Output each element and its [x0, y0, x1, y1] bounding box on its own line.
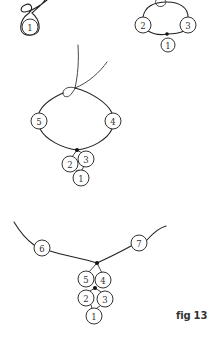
bead-2: 2: [78, 290, 94, 306]
svg-text:1: 1: [27, 23, 32, 33]
svg-text:1: 1: [91, 312, 96, 322]
bead-4: 4: [95, 272, 111, 288]
thread-loop-bottom-left: [40, 129, 77, 150]
bead-1: 1: [73, 170, 89, 186]
bead-7: 7: [131, 235, 147, 251]
step-4: 6 7 5 4 2 3 1: [14, 222, 166, 324]
thread-right: [147, 226, 166, 240]
thread-loop-right: [75, 88, 112, 113]
bead-1: 1: [161, 38, 175, 52]
svg-text:7: 7: [136, 239, 141, 249]
knot: [165, 32, 169, 36]
thread-tail-left: [75, 45, 78, 88]
svg-text:2: 2: [67, 160, 72, 170]
step-1: 1: [21, 0, 47, 35]
bead-4: 4: [105, 113, 121, 129]
thread-left-inner: [50, 251, 97, 263]
knot-middle: [93, 286, 97, 290]
svg-text:5: 5: [36, 117, 41, 127]
svg-text:3: 3: [83, 155, 88, 165]
svg-text:3: 3: [102, 295, 107, 305]
svg-text:4: 4: [110, 117, 115, 127]
bead-6: 6: [34, 240, 50, 256]
svg-text:5: 5: [83, 275, 88, 285]
bead-5: 5: [78, 271, 94, 287]
figure-caption: fig 13: [176, 310, 207, 321]
thread-overhand-knot: [63, 87, 75, 97]
bead-2: 2: [62, 156, 78, 172]
thread-tail-right: [75, 62, 107, 88]
bead-1: 1: [86, 308, 102, 324]
bead-5: 5: [31, 113, 47, 129]
bead-3: 3: [78, 151, 94, 167]
svg-text:4: 4: [100, 276, 105, 286]
svg-text:2: 2: [83, 294, 88, 304]
svg-text:3: 3: [185, 21, 190, 31]
bead-1: 1: [22, 19, 38, 35]
svg-text:2: 2: [140, 21, 145, 31]
step-2: 2 3 1: [135, 0, 196, 52]
beading-diagram: 1 2 3 1 5: [0, 0, 211, 341]
thread-loop-bottom-right: [77, 129, 112, 150]
knot-top: [95, 261, 99, 265]
bead-3: 3: [180, 17, 196, 33]
svg-text:6: 6: [39, 244, 44, 254]
thread-loop-left: [39, 93, 63, 113]
svg-text:1: 1: [78, 174, 83, 184]
svg-text:1: 1: [165, 41, 170, 51]
bead-3: 3: [97, 291, 113, 307]
thread-right-inner: [97, 246, 131, 263]
thread-left: [14, 222, 34, 245]
knot: [75, 148, 79, 152]
bead-2: 2: [135, 17, 151, 33]
step-3: 5 4 3 2 1: [31, 45, 121, 186]
